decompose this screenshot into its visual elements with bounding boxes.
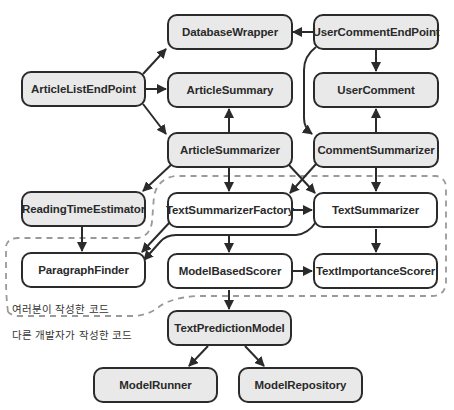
node-reading-time-estimator: ReadingTimeEstimator xyxy=(21,191,146,227)
node-text-prediction-model: TextPredictionModel xyxy=(167,310,292,346)
node-article-list-endpoint: ArticleListEndPoint xyxy=(21,71,146,107)
edge-articlesummarizer-readingtime xyxy=(143,164,172,191)
node-model-repository: ModelRepository xyxy=(238,367,363,403)
node-model-runner: ModelRunner xyxy=(93,367,218,403)
node-article-summarizer: ArticleSummarizer xyxy=(167,132,293,168)
edge-articlelist-database xyxy=(143,49,166,74)
node-user-comment-endpoint: UserCommentEndPoint xyxy=(313,14,439,50)
edge-textprediction-modelrunner xyxy=(189,346,208,366)
edge-textprediction-modelrepository xyxy=(245,346,264,366)
dependency-diagram: DatabaseWrapper UserCommentEndPoint Arti… xyxy=(0,0,454,410)
boundary-label-other-code: 다른 개발자가 작성한 코드 xyxy=(12,327,132,342)
node-text-importance-scorer: TextImportanceScorer xyxy=(313,253,438,289)
node-paragraph-finder: ParagraphFinder xyxy=(21,252,146,288)
node-article-summary: ArticleSummary xyxy=(167,72,293,108)
boundary-label-your-code: 여러분이 작성한 코드 xyxy=(12,301,109,316)
node-model-based-scorer: ModelBasedScorer xyxy=(167,253,293,289)
node-database-wrapper: DatabaseWrapper xyxy=(167,14,293,50)
node-comment-summarizer: CommentSummarizer xyxy=(313,132,439,168)
node-text-summarizer: TextSummarizer xyxy=(313,192,438,228)
node-text-summarizer-factory: TextSummarizerFactory xyxy=(167,192,293,228)
node-user-comment: UserComment xyxy=(313,72,439,108)
edge-articlelist-articlesummarizer xyxy=(143,104,166,134)
